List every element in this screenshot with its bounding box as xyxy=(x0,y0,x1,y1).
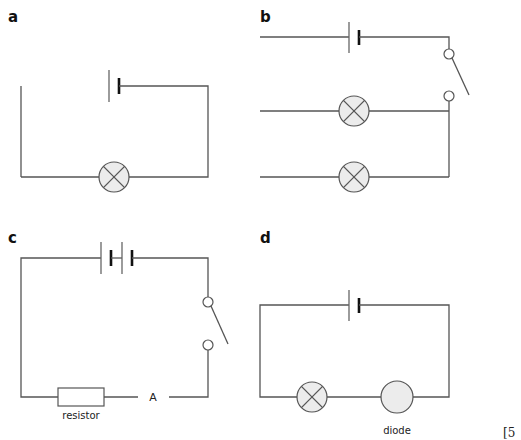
wire xyxy=(119,86,208,177)
circuit-d-label: d xyxy=(260,229,271,247)
lamp-icon xyxy=(99,162,129,192)
circuit-a: a xyxy=(8,8,208,192)
circuit-c-label: c xyxy=(8,229,17,247)
wire xyxy=(21,258,101,397)
resistor-icon xyxy=(58,388,104,406)
lamp-icon xyxy=(339,162,369,192)
circuit-b: b xyxy=(260,8,469,192)
wire xyxy=(169,350,208,397)
wire xyxy=(260,305,349,397)
switch-open-icon xyxy=(444,49,469,101)
diode-icon xyxy=(381,381,413,413)
lamp-icon xyxy=(339,96,369,126)
wire xyxy=(132,258,208,297)
ammeter-label: A xyxy=(149,391,157,404)
diode-label: diode xyxy=(383,425,411,436)
circuit-b-label: b xyxy=(260,8,271,26)
circuit-d: d diode xyxy=(260,229,449,436)
wire xyxy=(359,37,449,49)
resistor-label: resistor xyxy=(62,410,100,421)
marks-label: [5 xyxy=(503,426,515,440)
switch-open-icon xyxy=(203,297,228,350)
lamp-icon xyxy=(297,382,327,412)
circuit-c: c A resistor xyxy=(8,229,228,421)
battery-icon xyxy=(101,242,132,274)
circuit-a-label: a xyxy=(8,8,18,26)
circuit-diagrams: a b xyxy=(0,0,521,440)
